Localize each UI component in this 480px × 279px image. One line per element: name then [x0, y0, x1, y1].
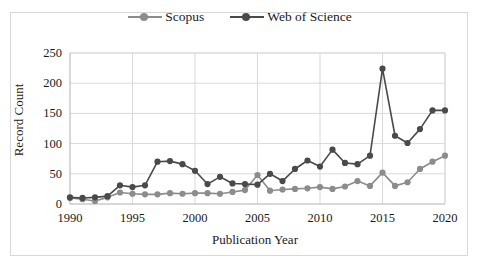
- x-tick-label: 2000: [173, 212, 217, 224]
- x-tick-label: 1990: [48, 212, 92, 224]
- x-tick-label: 2010: [298, 212, 342, 224]
- x-tick-label: 1995: [111, 212, 155, 224]
- x-tick-label: 2020: [423, 212, 467, 224]
- y-axis-label: Record Count: [11, 70, 27, 170]
- x-axis-label: Publication Year: [60, 232, 450, 248]
- x-tick-label: 2015: [361, 212, 405, 224]
- x-tick-label: 2005: [236, 212, 280, 224]
